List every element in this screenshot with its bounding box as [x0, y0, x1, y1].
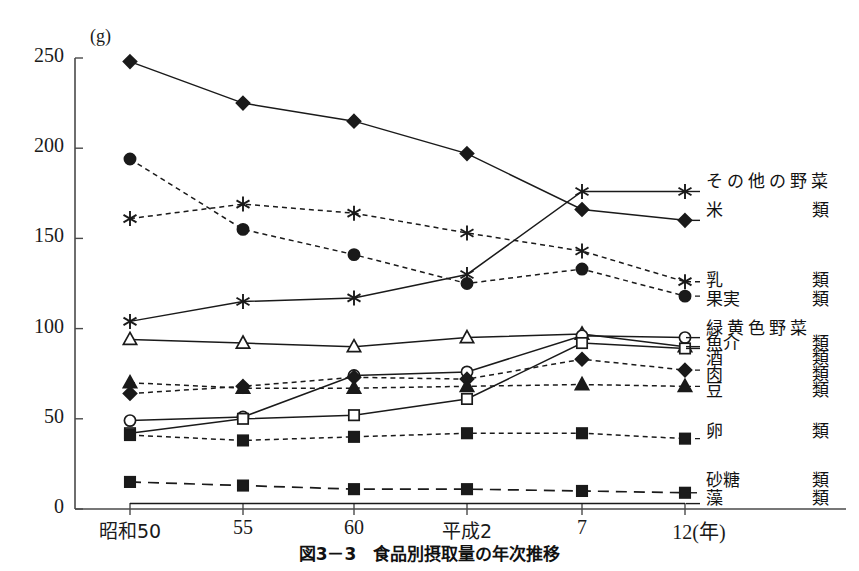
- series-marker: [349, 432, 359, 442]
- series-marker: [348, 249, 359, 260]
- series-marker: [238, 414, 248, 424]
- series-marker: [462, 394, 472, 404]
- legend-item-label: その他の野菜: [706, 167, 832, 192]
- y-axis-unit-label: (g): [90, 26, 111, 47]
- chart-container: 250200150100500(g) 昭和505560平成2712(年) その他…: [0, 0, 859, 571]
- series-marker: [237, 224, 248, 235]
- series-marker: [349, 410, 359, 420]
- series-marker: [238, 435, 248, 445]
- y-tick-label: 200: [34, 134, 64, 157]
- series-line: [130, 482, 685, 493]
- series-marker: [347, 115, 360, 128]
- series-8: [123, 376, 691, 393]
- legend-item-suffix: 類: [812, 376, 829, 401]
- series-marker: [460, 147, 473, 160]
- figure-caption: 図3－3 食品別摂取量の年次推移: [0, 540, 859, 565]
- x-tick-label: 7: [577, 516, 587, 539]
- series-marker: [577, 338, 587, 348]
- series-marker: [349, 484, 359, 494]
- legend-item-label: 卵: [706, 417, 723, 442]
- y-tick-label: 50: [44, 405, 64, 428]
- series-marker: [461, 278, 472, 289]
- series-marker: [124, 415, 135, 426]
- series-marker: [125, 430, 135, 440]
- series-marker: [576, 263, 587, 274]
- series-marker: [460, 331, 473, 343]
- legend-item-label: 米: [706, 196, 723, 221]
- series-10: [125, 477, 690, 498]
- x-tick-label: 昭和50: [99, 516, 161, 543]
- series-line: [130, 359, 685, 393]
- series-line: [130, 383, 685, 388]
- series-4: [123, 327, 691, 352]
- legend-item-label: 藻: [706, 484, 723, 509]
- series-marker: [575, 203, 588, 216]
- series-marker: [124, 314, 137, 329]
- x-tick-label: 60: [344, 516, 364, 539]
- y-tick-label: 250: [34, 44, 64, 67]
- legend-item-suffix: 類: [812, 285, 829, 310]
- series-marker: [577, 428, 587, 438]
- series-marker: [236, 336, 249, 348]
- series-line: [130, 433, 685, 440]
- y-tick-label: 100: [34, 315, 64, 338]
- series-marker: [575, 378, 588, 390]
- series-marker: [575, 353, 588, 366]
- legend-item-suffix: 類: [812, 417, 829, 442]
- series-line: [130, 159, 685, 296]
- series-marker: [238, 480, 248, 490]
- series-marker: [125, 477, 135, 487]
- series-line: [130, 62, 685, 221]
- legend-item-label: 果実: [706, 285, 740, 310]
- y-tick-label: 0: [54, 495, 64, 518]
- x-tick-label: 平成2: [442, 516, 492, 543]
- series-1: [123, 55, 691, 227]
- series-0: [124, 184, 692, 329]
- series-3: [124, 153, 690, 301]
- legend-item-suffix: 類: [812, 484, 829, 509]
- series-marker: [123, 387, 136, 400]
- series-marker: [678, 379, 691, 391]
- series-marker: [124, 153, 135, 164]
- series-marker: [462, 484, 472, 494]
- series-marker: [123, 55, 136, 68]
- series-marker: [123, 376, 136, 388]
- legend-item-label: 豆: [706, 376, 723, 401]
- series-marker: [462, 428, 472, 438]
- y-tick-label: 150: [34, 224, 64, 247]
- series-6: [125, 338, 690, 439]
- series-9: [125, 428, 690, 446]
- series-7: [123, 353, 691, 400]
- series-marker: [347, 381, 360, 393]
- series-marker: [236, 97, 249, 110]
- x-tick-label: 55: [233, 516, 253, 539]
- series-line: [130, 204, 685, 282]
- series-marker: [123, 332, 136, 344]
- series-marker: [577, 486, 587, 496]
- legend-item-suffix: 類: [812, 196, 829, 221]
